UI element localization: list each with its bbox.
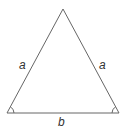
right-angle-arc-icon: [112, 107, 116, 113]
triangle-diagram: a a b: [0, 0, 126, 134]
left-side-label: a: [19, 58, 26, 72]
right-side-label: a: [99, 58, 106, 72]
left-angle-arc-icon: [10, 107, 14, 113]
base-side-label: b: [58, 115, 65, 129]
